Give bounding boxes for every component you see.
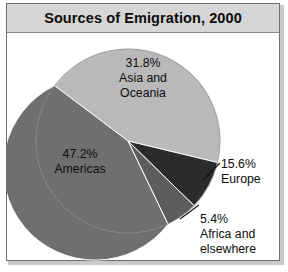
pie-label-europe-value: 15.6% <box>221 157 261 172</box>
chart-frame: Sources of Emigration, 2000 <box>6 3 280 261</box>
pie-label-africa-value: 5.4% <box>200 212 256 227</box>
pie-label-africa-name-line2: elsewhere <box>200 242 256 257</box>
pie-label-asia-and-oceania: 31.8% Asia and Oceania <box>98 56 188 101</box>
pie-chart-plot-area: 31.8% Asia and Oceania 47.2% Americas 15… <box>7 33 279 260</box>
pie-label-africa-and-elsewhere: 5.4% Africa and elsewhere <box>200 212 256 257</box>
pie-label-asia-value: 31.8% <box>98 56 188 71</box>
pie-label-europe-name: Europe <box>221 172 261 187</box>
pie-label-americas-name: Americas <box>34 162 126 177</box>
pie-label-americas-value: 47.2% <box>34 147 126 162</box>
figure-container: Sources of Emigration, 2000 <box>0 0 288 272</box>
pie-label-africa-name-line1: Africa and <box>200 227 256 242</box>
pie-label-europe: 15.6% Europe <box>221 157 261 187</box>
pie-label-asia-name-line1: Asia and <box>98 71 188 86</box>
chart-title: Sources of Emigration, 2000 <box>44 10 242 26</box>
pie-label-americas: 47.2% Americas <box>34 147 126 177</box>
chart-title-bar: Sources of Emigration, 2000 <box>7 4 279 33</box>
pie-label-asia-name-line2: Oceania <box>98 86 188 101</box>
